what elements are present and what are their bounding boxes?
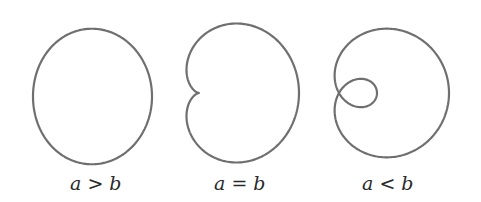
label-a-gt-b: a > b [70,172,122,194]
label-a-eq-b: a = b [214,172,266,194]
cardioid-curve [187,24,300,163]
label-a-lt-b: a < b [362,172,414,194]
limacon-convex-curve [33,29,152,165]
limacon-inner-loop-curve [335,29,449,158]
